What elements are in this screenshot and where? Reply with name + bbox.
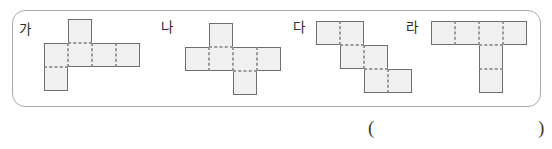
net-cell [185, 47, 209, 71]
net-cell [68, 43, 92, 67]
net-cell [388, 69, 412, 93]
net-cell [479, 69, 503, 93]
net-cell [503, 21, 527, 45]
answer-row: ( ) [0, 112, 552, 145]
page-root: 가나다라 ( ) [0, 0, 552, 149]
net-cell [257, 47, 281, 71]
net-cell [44, 67, 68, 91]
net-cell [316, 21, 340, 45]
net-cell [92, 43, 116, 67]
net-cell [340, 45, 364, 69]
net-ga-label: 가 [19, 23, 31, 37]
net-cell [209, 23, 233, 47]
net-cell [44, 43, 68, 67]
net-cell [364, 45, 388, 69]
net-na-label: 나 [161, 21, 173, 35]
net-cell [431, 21, 455, 45]
net-ra-label: 라 [406, 21, 418, 35]
answer-open-paren: ( [368, 118, 374, 137]
net-cell [233, 71, 257, 95]
answer-close-paren: ) [538, 118, 544, 137]
net-cell [479, 21, 503, 45]
net-cell [116, 43, 140, 67]
net-cell [68, 19, 92, 43]
net-cell [209, 47, 233, 71]
net-da-label: 다 [293, 21, 305, 35]
net-cell [479, 45, 503, 69]
net-cell [364, 69, 388, 93]
net-cell [455, 21, 479, 45]
net-cell [340, 21, 364, 45]
net-options-panel: 가나다라 [12, 10, 541, 107]
net-cell [233, 47, 257, 71]
